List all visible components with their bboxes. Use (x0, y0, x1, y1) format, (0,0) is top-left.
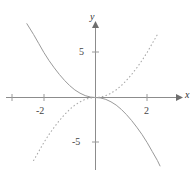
x-axis-arrow-icon (176, 94, 183, 101)
graph-figure: -2 2 5 -5 x y (0, 0, 195, 177)
x-axis-label: x (185, 90, 189, 100)
solid-curve (27, 24, 160, 166)
plot-canvas (0, 0, 195, 177)
x-tick-label-neg2: -2 (36, 106, 44, 116)
y-tick-label-pos5: 5 (79, 47, 84, 57)
x-tick-label-pos2: 2 (144, 106, 149, 116)
y-axis-label: y (90, 12, 94, 22)
y-tick-label-neg5: -5 (72, 137, 80, 147)
y-axis-arrow-icon (92, 21, 99, 28)
curve-group (27, 24, 160, 166)
